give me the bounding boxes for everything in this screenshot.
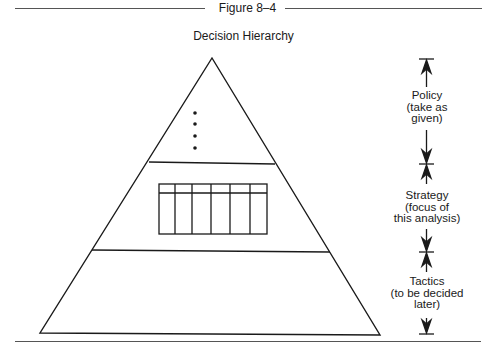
pyramid [40, 58, 380, 335]
strategy-table-grid [159, 184, 267, 234]
pyramid-divider-policy-strategy [149, 162, 275, 164]
side-label-tactics: Tactics (to be decided later) [377, 276, 477, 311]
ellipsis-dots [193, 111, 197, 150]
pyramid-outline [40, 58, 380, 335]
bottom-rule [15, 341, 481, 342]
pyramid-divider-strategy-tactics [92, 250, 330, 252]
side-label-policy: Policy (take as given) [377, 90, 477, 125]
side-label-strategy: Strategy (focus of this analysis) [377, 190, 477, 225]
